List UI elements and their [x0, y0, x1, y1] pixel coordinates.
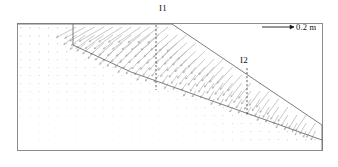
inclinometer-2-label: I2	[240, 55, 248, 65]
inclinometer-1-label: I1	[159, 3, 167, 13]
figure-canvas	[0, 0, 338, 167]
scale-legend-label: 0.2 m	[296, 22, 316, 32]
displacement-vector-figure: I1 I2 0.2 m	[0, 0, 338, 167]
plot-frame	[18, 24, 323, 151]
